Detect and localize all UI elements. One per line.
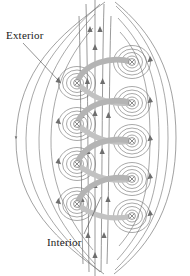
interior-label: Interior xyxy=(47,236,82,248)
loop-arrowheads xyxy=(56,56,154,216)
wire-into-page-icon xyxy=(129,59,136,66)
wire-into-page-icon xyxy=(74,80,81,87)
wire-cross-sections-left xyxy=(74,80,81,208)
wire-into-page-icon xyxy=(129,138,136,145)
wire-into-page-icon xyxy=(129,176,136,183)
wire-into-page-icon xyxy=(74,121,81,128)
wire-into-page-icon xyxy=(74,161,81,168)
wire-into-page-icon xyxy=(74,201,81,208)
wire-into-page-icon xyxy=(129,213,136,220)
wire-into-page-icon xyxy=(129,100,136,107)
field-diagram-canvas xyxy=(0,0,190,276)
label-leader-lines xyxy=(23,43,101,234)
exterior-label: Exterior xyxy=(6,29,44,41)
solenoid-field-diagram: Exterior Interior xyxy=(0,0,190,276)
exterior-leader-line xyxy=(23,43,58,80)
